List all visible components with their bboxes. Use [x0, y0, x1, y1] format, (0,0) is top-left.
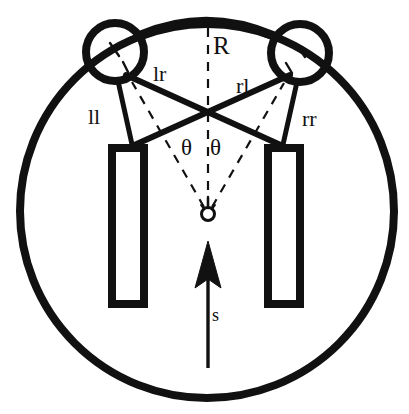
right-wheel-rect	[268, 148, 300, 304]
sensor-marker-circle	[202, 208, 215, 221]
diagram-canvas: R lr rl ll rr θ θ s	[0, 0, 409, 414]
label-theta-right: θ	[210, 136, 221, 159]
left-wheel-rect	[112, 148, 144, 304]
left-beacon-circle	[86, 23, 144, 81]
label-line-lr: lr	[153, 63, 166, 85]
label-line-rr: rr	[302, 108, 317, 130]
label-line-ll: ll	[88, 106, 100, 128]
geometry-svg	[0, 0, 409, 414]
line-ll	[118, 81, 133, 149]
label-radius: R	[213, 33, 230, 58]
label-line-rl: rl	[236, 75, 249, 97]
label-heading-s: s	[212, 306, 219, 324]
right-beacon-circle	[271, 24, 329, 82]
label-theta-left: θ	[181, 136, 192, 159]
sensor-marker	[201, 197, 215, 221]
line-rr	[282, 82, 297, 149]
